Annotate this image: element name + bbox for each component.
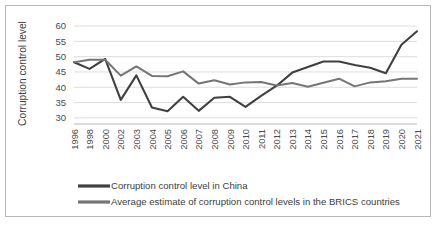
legend-label-brics: Average estimate of corruption control l… bbox=[111, 196, 400, 207]
x-axis-tick-label: 2018 bbox=[366, 129, 376, 150]
x-axis-tick-label: 2005 bbox=[163, 129, 173, 150]
x-axis-tick-label: 1996 bbox=[70, 129, 80, 150]
x-axis-tick-label: 2000 bbox=[101, 129, 111, 150]
y-axis-tick-label: 55 bbox=[55, 36, 66, 47]
x-axis-tick-label: 2004 bbox=[148, 129, 158, 150]
x-axis-tick-label: 2007 bbox=[194, 129, 204, 150]
x-axis-tick-label: 2008 bbox=[210, 129, 220, 150]
x-axis-tick-label: 2020 bbox=[397, 129, 407, 150]
chart-figure: 3035404550556019961998200020022003200420… bbox=[0, 0, 436, 231]
x-axis-tick-label: 2002 bbox=[116, 129, 126, 150]
y-axis-tick-label: 60 bbox=[55, 20, 66, 31]
y-axis-tick-label: 50 bbox=[55, 51, 66, 62]
x-axis-tick-label: 2012 bbox=[272, 129, 282, 150]
chart-frame: 3035404550556019961998200020022003200420… bbox=[5, 5, 431, 217]
y-axis-tick-label: 40 bbox=[55, 82, 66, 93]
series-line-china bbox=[74, 31, 417, 111]
x-axis-tick-label: 2017 bbox=[350, 129, 360, 150]
x-axis-tick-label: 2016 bbox=[335, 129, 345, 150]
x-axis-tick-label: 1998 bbox=[85, 129, 95, 150]
x-axis-tick-label: 2006 bbox=[179, 129, 189, 150]
x-axis-tick-label: 2003 bbox=[132, 129, 142, 150]
series-line-brics bbox=[74, 60, 417, 87]
x-axis-tick-label: 2009 bbox=[226, 129, 236, 150]
x-axis-tick-label: 2021 bbox=[413, 129, 423, 150]
y-axis-tick-label: 35 bbox=[55, 97, 66, 108]
line-chart: 3035404550556019961998200020022003200420… bbox=[6, 6, 430, 216]
x-axis-tick-label: 2019 bbox=[381, 129, 391, 150]
y-axis-tick-label: 45 bbox=[55, 66, 66, 77]
legend-label-china: Corruption control level in China bbox=[111, 180, 248, 191]
x-axis-tick-label: 2015 bbox=[319, 129, 329, 150]
x-axis-tick-label: 2014 bbox=[303, 129, 313, 150]
y-axis-tick-label: 30 bbox=[55, 112, 66, 123]
y-axis-title: Corruption control level bbox=[17, 21, 28, 126]
x-axis-tick-label: 2013 bbox=[288, 129, 298, 150]
x-axis-tick-label: 2010 bbox=[241, 129, 251, 150]
x-axis-tick-label: 2011 bbox=[257, 129, 267, 149]
